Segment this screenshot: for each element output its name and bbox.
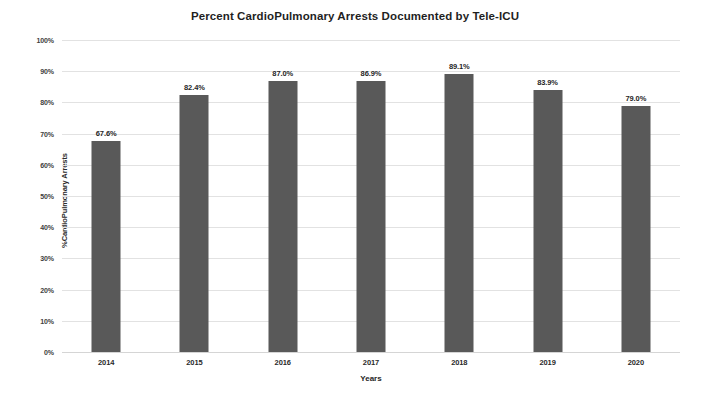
bar-value-label: 79.0%	[601, 94, 671, 103]
bar-group: 79.0%	[592, 40, 680, 352]
bar-value-label: 87.0%	[248, 69, 318, 78]
plot-area: 67.6%82.4%87.0%86.9%89.1%83.9%79.0%	[62, 40, 680, 352]
y-axis-tick-label: 70%	[10, 130, 54, 137]
bar-group: 82.4%	[150, 40, 238, 352]
bar-group: 83.9%	[503, 40, 591, 352]
bar[interactable]	[356, 81, 385, 352]
bar-value-label: 86.9%	[336, 69, 406, 78]
bar[interactable]	[180, 95, 209, 352]
bar[interactable]	[621, 106, 650, 352]
bar-group: 87.0%	[239, 40, 327, 352]
bar[interactable]	[445, 74, 474, 352]
bar-value-label: 82.4%	[159, 83, 229, 92]
bar-value-label: 67.6%	[71, 129, 141, 138]
bar-group: 89.1%	[415, 40, 503, 352]
y-axis-tick-label: 80%	[10, 99, 54, 106]
bar-group: 86.9%	[327, 40, 415, 352]
x-axis-tick-label: 2018	[415, 358, 503, 367]
y-axis-tick-label: 40%	[10, 224, 54, 231]
x-axis-tick-label: 2019	[503, 358, 591, 367]
bar[interactable]	[533, 90, 562, 352]
x-axis-tick-label: 2016	[239, 358, 327, 367]
x-axis-tick-label: 2015	[150, 358, 238, 367]
bar[interactable]	[268, 81, 297, 352]
gridline	[62, 352, 680, 353]
y-axis-tick-label: 90%	[10, 68, 54, 75]
chart-title: Percent CardioPulmonary Arrests Document…	[0, 10, 710, 22]
bar-value-label: 83.9%	[513, 78, 583, 87]
y-axis-tick-label: 10%	[10, 317, 54, 324]
x-axis-title: Years	[62, 374, 680, 383]
bar[interactable]	[92, 141, 121, 352]
bar-group: 67.6%	[62, 40, 150, 352]
y-axis-tick-label: 30%	[10, 255, 54, 262]
bar-value-label: 89.1%	[424, 62, 494, 71]
y-axis-tick-label: 100%	[10, 37, 54, 44]
y-axis-tick-label: 0%	[10, 349, 54, 356]
y-axis-tick-label: 20%	[10, 286, 54, 293]
bar-chart: Percent CardioPulmonary Arrests Document…	[0, 0, 710, 395]
y-axis-tick-label: 60%	[10, 161, 54, 168]
x-axis-tick-label: 2014	[62, 358, 150, 367]
x-axis-tick-label: 2020	[592, 358, 680, 367]
y-axis-tick-label: 50%	[10, 193, 54, 200]
x-axis-tick-label: 2017	[327, 358, 415, 367]
